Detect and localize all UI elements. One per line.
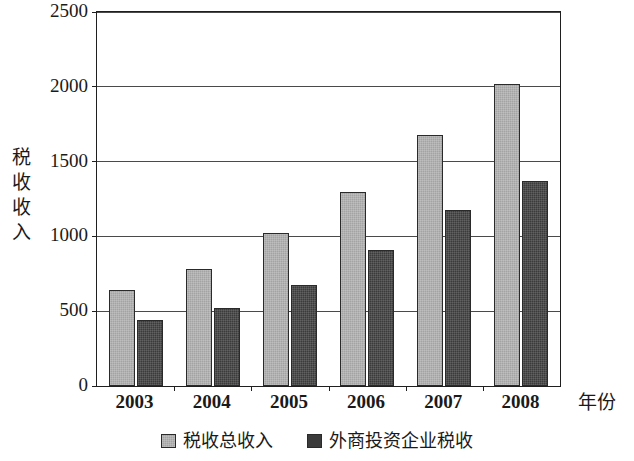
legend-swatch-icon-2 bbox=[307, 434, 322, 448]
bar-2004-series-1 bbox=[186, 269, 212, 386]
gridline bbox=[97, 161, 560, 162]
y-tick-label: 0 bbox=[36, 375, 88, 394]
y-tick-mark bbox=[92, 311, 97, 312]
y-tick-label: 500 bbox=[36, 300, 88, 319]
x-tick-label-2005: 2005 bbox=[254, 391, 324, 413]
y-tick-label: 1000 bbox=[36, 225, 88, 244]
legend-item-2: 外商投资企业税收 bbox=[307, 431, 473, 451]
x-tick-label-2003: 2003 bbox=[100, 391, 170, 413]
legend-item-1: 税收总收入 bbox=[161, 431, 273, 451]
y-tick-mark bbox=[92, 12, 97, 13]
y-tick-label: 2000 bbox=[36, 76, 88, 95]
x-axis-title: 年份 bbox=[578, 392, 616, 414]
bar-2005-series-1 bbox=[263, 233, 289, 386]
bar-2005-series-2 bbox=[291, 285, 317, 386]
bar-2003-series-2 bbox=[137, 320, 163, 386]
legend-label-2: 外商投资企业税收 bbox=[329, 431, 473, 451]
y-tick-label: 2500 bbox=[36, 1, 88, 20]
y-tick-mark bbox=[92, 161, 97, 162]
bar-2004-series-2 bbox=[214, 308, 240, 386]
bar-2008-series-1 bbox=[494, 84, 520, 386]
bar-2007-series-2 bbox=[445, 210, 471, 386]
x-tick-label-2008: 2008 bbox=[485, 391, 555, 413]
y-tick-label: 1500 bbox=[36, 151, 88, 170]
y-tick-mark bbox=[92, 386, 97, 387]
plot-area bbox=[96, 11, 561, 387]
bar-2006-series-2 bbox=[368, 250, 394, 386]
x-axis-tick-labels: 200320042005200620072008 bbox=[96, 391, 561, 417]
legend-swatch-icon-1 bbox=[161, 434, 176, 448]
gridline bbox=[97, 311, 560, 312]
gridline bbox=[97, 12, 560, 13]
gridline bbox=[97, 236, 560, 237]
y-tick-mark bbox=[92, 86, 97, 87]
x-tick-label-2004: 2004 bbox=[177, 391, 247, 413]
chart-legend: 税收总收入外商投资企业税收 bbox=[0, 431, 634, 451]
y-axis-tick-labels: 05001000150020002500 bbox=[30, 0, 88, 461]
bar-2003-series-1 bbox=[109, 290, 135, 386]
gridline bbox=[97, 86, 560, 87]
legend-label-1: 税收总收入 bbox=[183, 431, 273, 451]
y-tick-mark bbox=[92, 236, 97, 237]
x-tick-label-2007: 2007 bbox=[408, 391, 478, 413]
bar-2006-series-1 bbox=[340, 192, 366, 386]
tax-revenue-bar-chart: 税 收 收 入 05001000150020002500 20032004200… bbox=[0, 0, 634, 461]
bar-2007-series-1 bbox=[417, 135, 443, 386]
x-tick-label-2006: 2006 bbox=[331, 391, 401, 413]
bar-2008-series-2 bbox=[522, 181, 548, 386]
